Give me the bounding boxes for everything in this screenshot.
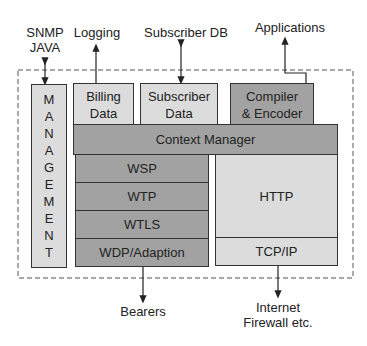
wtp-box: WTP <box>75 182 209 211</box>
management-letter: N <box>44 125 53 142</box>
management-letter: A <box>45 142 54 159</box>
wtls-box: WTLS <box>75 210 209 239</box>
management-letter: M <box>44 193 55 210</box>
management-letter: G <box>44 159 54 176</box>
snmp-label: SNMP <box>22 25 68 40</box>
firewall-label: Firewall etc. <box>230 315 326 330</box>
management-letter: A <box>45 108 54 125</box>
management-box: M A N A G E M E N T <box>31 84 67 268</box>
compiler-line1: Compiler <box>246 88 298 105</box>
management-letter: M <box>44 91 55 108</box>
management-letter: E <box>45 210 54 227</box>
subscriber-db-label: Subscriber DB <box>136 25 236 40</box>
management-letter: N <box>44 227 53 244</box>
compiler-line2: & Encoder <box>242 105 303 122</box>
wsp-box: WSP <box>75 154 209 183</box>
context-manager-box: Context Manager <box>73 124 338 155</box>
wdp-box: WDP/Adaption <box>75 238 209 267</box>
logging-label: Logging <box>72 25 122 40</box>
billing-data-box: Billing Data <box>73 83 134 126</box>
applications-label: Applications <box>250 20 330 35</box>
management-letter: T <box>45 244 53 261</box>
subscriber-line2: Data <box>165 105 192 122</box>
billing-line2: Data <box>90 105 117 122</box>
http-box: HTTP <box>215 154 338 238</box>
subscriber-data-box: Subscriber Data <box>140 83 218 126</box>
subscriber-line1: Subscriber <box>148 88 210 105</box>
compiler-encoder-box: Compiler & Encoder <box>230 83 314 126</box>
internet-label: Internet <box>240 300 316 315</box>
java-label: JAVA <box>22 40 68 55</box>
billing-line1: Billing <box>86 88 121 105</box>
tcpip-box: TCP/IP <box>215 237 338 266</box>
management-letter: E <box>45 176 54 193</box>
bearers-label: Bearers <box>113 304 173 319</box>
